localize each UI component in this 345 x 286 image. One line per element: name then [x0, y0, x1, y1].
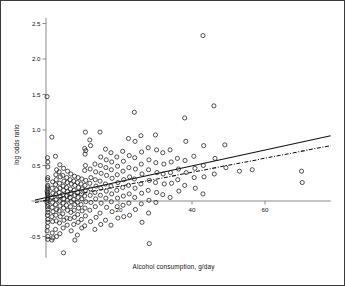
- data-point: [69, 229, 73, 233]
- data-point: [80, 226, 84, 230]
- data-point: [116, 216, 120, 220]
- data-point: [50, 231, 54, 235]
- data-point: [133, 167, 137, 171]
- data-point: [147, 158, 151, 162]
- figure-container: -0.50.51.01.52.02.5204060 log odds ratio…: [0, 0, 345, 286]
- data-point: [183, 116, 187, 120]
- data-point: [139, 202, 143, 206]
- data-point: [128, 175, 132, 179]
- data-point: [115, 196, 119, 200]
- data-point: [50, 215, 54, 219]
- data-point: [94, 170, 98, 174]
- data-point: [83, 206, 87, 210]
- data-point: [61, 251, 65, 255]
- data-point: [161, 151, 165, 155]
- data-point: [83, 183, 87, 187]
- data-point: [192, 154, 196, 158]
- data-point: [121, 159, 125, 163]
- data-point: [140, 172, 144, 176]
- data-point: [146, 168, 150, 172]
- y-tick-label: 2.0: [32, 55, 41, 62]
- data-point: [104, 196, 108, 200]
- data-point: [213, 156, 217, 160]
- data-point: [104, 189, 108, 193]
- data-point: [177, 189, 181, 193]
- data-point: [83, 163, 87, 167]
- data-point: [105, 205, 109, 209]
- data-point: [121, 169, 125, 173]
- data-point: [133, 195, 137, 199]
- data-point: [212, 172, 216, 176]
- data-point: [53, 227, 57, 231]
- data-point: [122, 215, 126, 219]
- data-point: [153, 133, 157, 137]
- data-point: [168, 171, 172, 175]
- data-point: [50, 186, 54, 190]
- data-point: [104, 166, 108, 170]
- data-point: [115, 173, 119, 177]
- data-point: [133, 186, 137, 190]
- data-point: [192, 176, 196, 180]
- data-point: [139, 162, 143, 166]
- y-tick-label: 1.0: [32, 126, 41, 133]
- data-point: [110, 192, 114, 196]
- data-point: [93, 205, 97, 209]
- data-point: [133, 207, 137, 211]
- data-point: [93, 178, 97, 182]
- data-point: [110, 176, 114, 180]
- data-point: [162, 162, 166, 166]
- data-point: [184, 171, 188, 175]
- data-point: [140, 150, 144, 154]
- data-point: [299, 169, 303, 173]
- data-point: [146, 188, 150, 192]
- data-point: [84, 178, 88, 182]
- data-point: [121, 194, 125, 198]
- data-point: [154, 161, 158, 165]
- data-point: [79, 182, 83, 186]
- data-point: [94, 197, 98, 201]
- data-point: [139, 134, 143, 138]
- data-point: [115, 164, 119, 168]
- data-point: [153, 180, 157, 184]
- y-axis-title: log odds ratio: [13, 100, 20, 190]
- data-point: [93, 162, 97, 166]
- data-point: [140, 191, 144, 195]
- data-point: [161, 193, 165, 197]
- data-point: [94, 215, 98, 219]
- data-point: [88, 193, 92, 197]
- x-tick-label: 40: [189, 206, 196, 213]
- data-point: [193, 186, 197, 190]
- data-point: [155, 190, 159, 194]
- data-point: [109, 223, 113, 227]
- data-point: [201, 34, 205, 38]
- data-point: [121, 149, 125, 153]
- data-point: [88, 181, 92, 185]
- data-point: [76, 212, 80, 216]
- data-point: [103, 147, 107, 151]
- data-point: [64, 203, 68, 207]
- data-point: [79, 202, 83, 206]
- data-point: [110, 160, 114, 164]
- data-point: [99, 222, 103, 226]
- data-point: [110, 210, 114, 214]
- data-point: [162, 182, 166, 186]
- data-point: [140, 220, 144, 224]
- data-point: [98, 193, 102, 197]
- data-point: [109, 151, 113, 155]
- data-point: [57, 181, 61, 185]
- y-tick-label: 1.5: [32, 91, 41, 98]
- data-point: [146, 211, 150, 215]
- data-point: [133, 139, 137, 143]
- x-tick-label: 60: [262, 206, 269, 213]
- data-point: [201, 192, 205, 196]
- data-point: [202, 144, 206, 148]
- data-point: [104, 158, 108, 162]
- data-point: [88, 220, 92, 224]
- data-point: [183, 158, 187, 162]
- data-point: [133, 156, 137, 160]
- data-point: [88, 208, 92, 212]
- data-point: [83, 130, 87, 134]
- data-point: [53, 154, 57, 158]
- data-point: [83, 214, 87, 218]
- data-point: [61, 226, 65, 230]
